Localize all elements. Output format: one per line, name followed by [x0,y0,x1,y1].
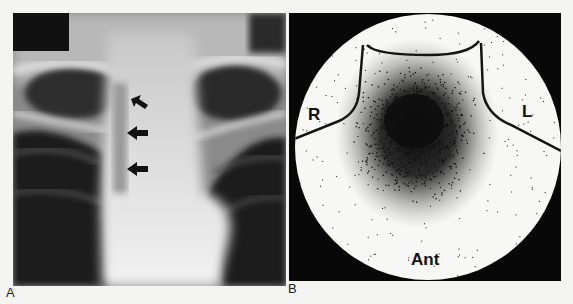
panel-label-a: A [6,285,15,300]
anterior-view-label: Ant [411,250,439,270]
scan-panel: R L Ant [289,13,561,281]
scintigraphy-image [289,13,561,281]
left-side-marker: L [522,102,532,122]
chest-xray-image [13,13,286,286]
xray-panel [13,13,286,286]
right-side-marker: R [308,105,320,125]
panel-label-b: B [288,281,297,296]
